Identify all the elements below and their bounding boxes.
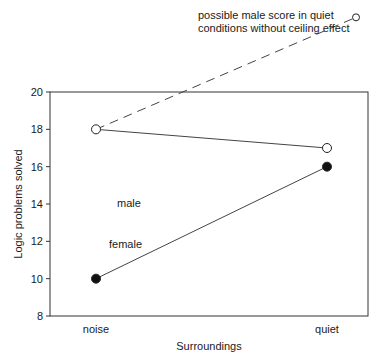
annotation-ceiling-line-1: possible male score in quiet bbox=[198, 9, 334, 21]
x-tick-label-quiet: quiet bbox=[315, 323, 339, 335]
point-male-quiet bbox=[323, 144, 332, 153]
y-tick-label-8: 8 bbox=[37, 310, 43, 322]
y-axis-ticks: 8101214161820 bbox=[31, 86, 50, 322]
y-tick-label-10: 10 bbox=[31, 273, 43, 285]
y-tick-label-20: 20 bbox=[31, 86, 43, 98]
point-male-noise bbox=[92, 125, 101, 134]
series-line-male-no-ceiling bbox=[96, 17, 356, 129]
series-line-male bbox=[96, 129, 327, 148]
y-tick-label-18: 18 bbox=[31, 123, 43, 135]
y-tick-label-14: 14 bbox=[31, 198, 43, 210]
y-tick-label-16: 16 bbox=[31, 161, 43, 173]
point-female-quiet bbox=[323, 162, 332, 171]
annotation-male: male bbox=[117, 197, 141, 209]
x-tick-label-noise: noise bbox=[83, 323, 109, 335]
y-tick-label-12: 12 bbox=[31, 235, 43, 247]
annotation-female: female bbox=[109, 238, 142, 250]
point-female-noise bbox=[92, 274, 101, 283]
chart: 8101214161820 noise quiet Surroundings L… bbox=[0, 0, 381, 363]
series-line-female bbox=[96, 167, 327, 279]
annotation-ceiling-line-2: conditions without ceiling effect bbox=[198, 22, 349, 34]
y-axis-title: Logic problems solved bbox=[12, 149, 24, 258]
point-male-no-ceiling-quiet bbox=[353, 14, 360, 21]
x-axis-title: Surroundings bbox=[176, 340, 242, 352]
